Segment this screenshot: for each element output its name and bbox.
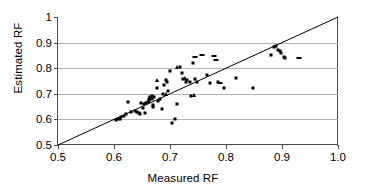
- data-point: [218, 82, 223, 84]
- data-point: [164, 92, 168, 96]
- data-point: [195, 80, 198, 83]
- x-axis-tick-label: 0.6: [106, 151, 122, 163]
- data-point: [143, 111, 146, 114]
- data-point: [214, 59, 219, 61]
- data-point: [296, 57, 301, 59]
- x-axis-tick: [170, 145, 171, 149]
- x-axis-tick: [58, 145, 59, 149]
- data-point: [208, 82, 211, 85]
- data-point: [142, 106, 145, 109]
- data-point: [155, 86, 158, 89]
- x-axis-title: Measured RF: [0, 172, 366, 184]
- data-point: [155, 78, 159, 82]
- data-point: [175, 65, 179, 69]
- y-axis-title: Estimated RF: [12, 2, 28, 114]
- x-axis-tick-label: 0.9: [274, 151, 290, 163]
- data-point: [159, 98, 162, 101]
- data-point: [284, 56, 287, 59]
- x-axis-tick-label: 0.5: [50, 151, 66, 163]
- data-point: [153, 96, 156, 99]
- data-point: [199, 54, 204, 56]
- y-axis-tick-label: 1: [46, 11, 52, 23]
- scatter-chart-figure: Estimated RF Measured RF 0.50.60.70.80.9…: [0, 0, 366, 194]
- data-point: [171, 121, 174, 124]
- data-point: [269, 53, 272, 56]
- data-point: [188, 81, 191, 84]
- data-point: [191, 61, 194, 64]
- data-point: [280, 52, 283, 55]
- data-point: [165, 80, 168, 83]
- data-point: [180, 71, 183, 74]
- data-point: [169, 69, 172, 72]
- data-point: [175, 102, 178, 105]
- y-axis-tick-label: 0.6: [36, 113, 52, 125]
- y-axis-tick-label: 0.8: [36, 62, 52, 74]
- data-point: [234, 76, 237, 79]
- y-axis-tick-label: 0.7: [36, 88, 52, 100]
- data-point: [127, 100, 130, 103]
- data-point: [192, 56, 197, 58]
- x-axis-tick: [226, 145, 227, 149]
- y-axis-tick-label: 0.9: [36, 37, 52, 49]
- data-point: [152, 106, 155, 109]
- data-point: [139, 112, 142, 115]
- data-point: [174, 118, 177, 121]
- y-axis-tick-label: 0.5: [36, 139, 52, 151]
- data-point: [125, 113, 128, 116]
- data-point: [161, 107, 164, 110]
- x-axis-tick-label: 1.0: [330, 151, 346, 163]
- data-point: [192, 93, 196, 97]
- x-axis-tick: [114, 145, 115, 149]
- data-point: [222, 87, 225, 90]
- x-axis-tick-label: 0.7: [162, 151, 178, 163]
- data-point: [274, 44, 277, 47]
- data-point: [183, 76, 187, 80]
- data-point: [252, 87, 255, 90]
- x-axis-tick: [338, 145, 339, 149]
- x-axis-tick-label: 0.8: [218, 151, 234, 163]
- data-point: [211, 55, 216, 57]
- data-point: [205, 74, 208, 77]
- data-point: [163, 84, 166, 87]
- plot-area: 0.50.60.70.80.91 0.50.60.70.80.91.0: [57, 17, 337, 145]
- x-axis-tick: [282, 145, 283, 149]
